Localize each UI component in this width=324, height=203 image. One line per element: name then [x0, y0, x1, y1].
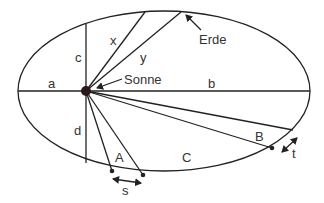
label-c: c [75, 50, 82, 65]
earth-pointer-arrow [186, 15, 201, 30]
label-a: a [48, 76, 56, 91]
orbit-svg: a b c d x y Sonne Erde A B C s t [0, 0, 324, 203]
label-y: y [140, 50, 147, 65]
orbit-diagram: a b c d x y Sonne Erde A B C s t [0, 0, 324, 203]
label-d: d [74, 123, 81, 138]
area-label-c: C [182, 150, 191, 165]
earth-label: Erde [199, 32, 226, 47]
point-a2 [141, 173, 146, 178]
area-label-a: A [115, 150, 124, 165]
arc-label-t: t [292, 146, 296, 161]
sun-label: Sonne [124, 72, 162, 87]
area-b-line-1 [86, 91, 293, 130]
label-b: b [208, 76, 215, 91]
arc-label-s: s [122, 183, 129, 198]
area-label-b: B [255, 129, 264, 144]
point-a1 [110, 169, 115, 174]
point-b1 [270, 146, 275, 151]
area-b-line-2 [86, 91, 272, 148]
label-x: x [110, 33, 117, 48]
sun-pointer-arrow [97, 79, 122, 88]
area-a-line-1 [86, 91, 112, 171]
sun-icon [81, 86, 91, 96]
